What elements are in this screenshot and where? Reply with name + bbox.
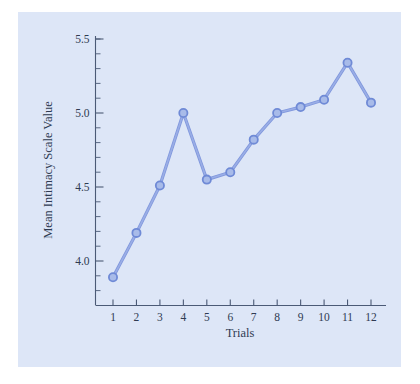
x-axis-tick-label: 10 bbox=[318, 311, 330, 323]
data-point-marker bbox=[179, 109, 187, 117]
data-point-marker bbox=[367, 99, 375, 107]
data-point-marker bbox=[273, 109, 281, 117]
chart-figure: 4.04.55.05.5 123456789101112 Trials Mean… bbox=[0, 0, 420, 384]
y-axis-tick-label: 4.0 bbox=[75, 255, 90, 267]
data-point-marker bbox=[226, 168, 234, 176]
x-axis-tick-label: 11 bbox=[342, 311, 353, 323]
data-point-marker bbox=[320, 96, 328, 104]
x-axis-tick-label: 3 bbox=[157, 311, 163, 323]
x-axis-tick-label: 8 bbox=[274, 311, 280, 323]
x-axis-tick-label: 9 bbox=[298, 311, 304, 323]
y-axis-tick-labels: 4.04.55.05.5 bbox=[75, 33, 90, 267]
data-point-marker bbox=[250, 136, 258, 144]
data-point-marker bbox=[343, 59, 351, 67]
y-axis-tick-label: 5.0 bbox=[75, 107, 90, 119]
series-line-mean-intimacy bbox=[113, 63, 371, 278]
data-point-marker bbox=[132, 229, 140, 237]
x-axis-tick-labels: 123456789101112 bbox=[110, 311, 377, 323]
series-markers bbox=[109, 59, 375, 282]
x-axis-tick-label: 2 bbox=[134, 311, 140, 323]
x-axis-tick-label: 5 bbox=[204, 311, 210, 323]
x-axis-ticks bbox=[113, 300, 371, 306]
x-axis-tick-label: 7 bbox=[251, 311, 257, 323]
data-point-marker bbox=[156, 181, 164, 189]
line-chart: 4.04.55.05.5 123456789101112 Trials Mean… bbox=[0, 0, 420, 384]
series-line-highlight bbox=[113, 63, 371, 278]
x-axis-tick-label: 6 bbox=[227, 311, 233, 323]
x-axis-tick-label: 12 bbox=[365, 311, 377, 323]
x-axis-tick-label: 4 bbox=[180, 311, 186, 323]
y-axis-tick-label: 4.5 bbox=[75, 181, 90, 193]
y-axis-minor-ticks bbox=[96, 39, 101, 291]
data-point-marker bbox=[297, 103, 305, 111]
y-axis-tick-label: 5.5 bbox=[75, 33, 90, 45]
y-axis-title: Mean Intimacy Scale Value bbox=[41, 101, 55, 239]
data-point-marker bbox=[109, 273, 117, 281]
x-axis-title: Trials bbox=[226, 326, 255, 340]
x-axis-tick-label: 1 bbox=[110, 311, 116, 323]
y-axis-major-ticks bbox=[96, 39, 104, 261]
data-point-marker bbox=[203, 176, 211, 184]
